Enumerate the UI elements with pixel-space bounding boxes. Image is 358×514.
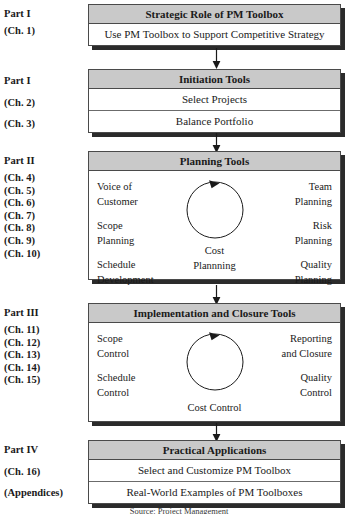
planning-center-item: Cost Plannning: [89, 243, 340, 273]
tool-line: Scope: [97, 218, 154, 233]
box-row[interactable]: Balance Portfolio: [89, 111, 340, 132]
down-arrow-icon: [211, 48, 222, 70]
chapter-label: (Ch. 4): [4, 172, 82, 185]
implementation-right-column: Reporting and Closure Quality Control: [282, 331, 332, 400]
tool-line: Development: [97, 272, 154, 287]
tool-line: Cost Control: [89, 400, 340, 415]
tool-line: Planning: [295, 272, 332, 287]
section-labels-initiation: Part I (Ch. 2) (Ch. 3): [4, 75, 82, 134]
tool-line: Plannning: [89, 258, 340, 273]
box-title: Implementation and Closure Tools: [89, 304, 340, 323]
planning-cycle-body: Voice of Customer Scope Planning Schedul…: [89, 171, 340, 279]
implementation-cycle-body: Scope Control Schedule Control Reporting…: [89, 323, 340, 421]
tool-item: Quality Control: [282, 370, 332, 400]
box-implementation-closure-tools[interactable]: Implementation and Closure Tools Scope C…: [88, 303, 341, 422]
figure-caption: Source: Project Management: [0, 506, 358, 514]
box-practical-applications[interactable]: Practical Applications Select and Custom…: [88, 440, 341, 504]
chapter-label: (Ch. 2): [4, 92, 82, 113]
chapter-label: (Ch. 6): [4, 197, 82, 210]
box-initiation-tools[interactable]: Initiation Tools Select Projects Balance…: [88, 69, 341, 133]
tool-line: Team: [295, 179, 332, 194]
box-title: Practical Applications: [89, 441, 340, 460]
tool-item: Scope Control: [97, 331, 136, 361]
chapter-label: (Ch. 3): [4, 113, 82, 134]
box-row[interactable]: Use PM Toolbox to Support Competitive St…: [89, 24, 340, 45]
box-strategic-role[interactable]: Strategic Role of PM Toolbox Use PM Tool…: [88, 4, 341, 46]
tool-line: Schedule: [97, 370, 136, 385]
box-title: Planning Tools: [89, 152, 340, 171]
tool-line: Control: [97, 346, 136, 361]
chapter-label: (Ch. 1): [4, 25, 82, 38]
tool-line: Voice of: [97, 179, 154, 194]
tool-line: Cost: [89, 243, 340, 258]
tool-line: Control: [282, 385, 332, 400]
tool-line: Planning: [295, 194, 332, 209]
chapter-list: (Ch. 1): [4, 25, 82, 38]
chapter-label: (Appendices): [4, 482, 82, 503]
chapter-label: (Ch. 11): [4, 324, 82, 337]
implementation-center-item: Cost Control: [89, 400, 340, 415]
chapter-label: (Ch. 16): [4, 461, 82, 482]
box-title: Strategic Role of PM Toolbox: [89, 5, 340, 24]
chapter-label: (Ch. 10): [4, 248, 82, 261]
cycle-arrow-icon: [182, 177, 248, 243]
chapter-list: (Ch. 4) (Ch. 5) (Ch. 6) (Ch. 7) (Ch. 8) …: [4, 172, 82, 260]
part-label: Part IV: [4, 444, 82, 456]
box-row[interactable]: Select and Customize PM Toolbox: [89, 460, 340, 482]
box-planning-tools[interactable]: Planning Tools Voice of Customer Scope P…: [88, 151, 341, 280]
implementation-left-column: Scope Control Schedule Control: [97, 331, 136, 400]
part-label: Part I: [4, 8, 82, 20]
tool-line: Scope: [97, 331, 136, 346]
tool-item: Team Planning: [295, 179, 332, 209]
chapter-label: (Ch. 13): [4, 349, 82, 362]
box-row[interactable]: Real-World Examples of PM Toolboxes: [89, 482, 340, 503]
chapter-label: (Ch. 7): [4, 210, 82, 223]
section-labels-planning: Part II (Ch. 4) (Ch. 5) (Ch. 6) (Ch. 7) …: [4, 155, 82, 260]
chapter-label: (Ch. 5): [4, 185, 82, 198]
box-title: Initiation Tools: [89, 70, 340, 89]
chapter-list: (Ch. 11) (Ch. 12) (Ch. 13) (Ch. 14) (Ch.…: [4, 324, 82, 387]
part-label: Part II: [4, 155, 82, 167]
chapter-label: (Ch. 12): [4, 337, 82, 350]
chapter-list: (Ch. 2) (Ch. 3): [4, 92, 82, 134]
pm-toolbox-framework-diagram: Part I (Ch. 1) Strategic Role of PM Tool…: [0, 0, 358, 514]
section-labels-strategic-role: Part I (Ch. 1): [4, 8, 82, 38]
chapter-label: (Ch. 8): [4, 222, 82, 235]
part-label: Part III: [4, 307, 82, 319]
tool-line: Quality: [282, 370, 332, 385]
tool-line: Reporting: [282, 331, 332, 346]
section-labels-practical: Part IV (Ch. 16) (Appendices): [4, 444, 82, 503]
section-labels-implementation: Part III (Ch. 11) (Ch. 12) (Ch. 13) (Ch.…: [4, 307, 82, 387]
cycle-arrow-icon: [182, 329, 248, 395]
box-row[interactable]: Select Projects: [89, 89, 340, 111]
tool-item: Schedule Control: [97, 370, 136, 400]
tool-line: Risk: [295, 218, 332, 233]
tool-line: Control: [97, 385, 136, 400]
part-label: Part I: [4, 75, 82, 87]
chapter-label: (Ch. 9): [4, 235, 82, 248]
tool-item: Reporting and Closure: [282, 331, 332, 361]
chapter-label: (Ch. 15): [4, 374, 82, 387]
chapter-label: (Ch. 14): [4, 362, 82, 375]
chapter-list: (Ch. 16) (Appendices): [4, 461, 82, 503]
tool-line: Customer: [97, 194, 154, 209]
tool-item: Voice of Customer: [97, 179, 154, 209]
tool-line: and Closure: [282, 346, 332, 361]
